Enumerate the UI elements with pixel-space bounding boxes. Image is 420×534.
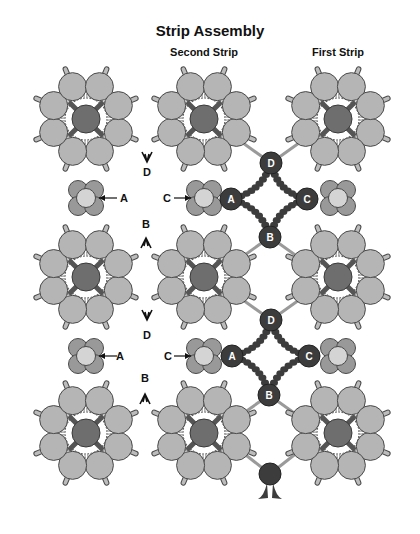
annotation-label-b: B xyxy=(142,218,150,230)
hub-node xyxy=(36,383,136,483)
connector-node-b: B xyxy=(259,226,281,248)
junction-node xyxy=(187,181,222,216)
hub-node xyxy=(36,69,136,169)
hub-nodes xyxy=(36,69,388,483)
svg-text:A: A xyxy=(228,351,235,362)
connector-node-partial xyxy=(258,463,282,499)
hub-node xyxy=(288,383,388,483)
annotation-label-b: B xyxy=(141,372,149,384)
hub-node xyxy=(154,383,254,483)
svg-text:B: B xyxy=(265,390,272,401)
annotation-label-c: C xyxy=(163,192,171,204)
hub-node xyxy=(154,227,254,327)
connector-node-a: A xyxy=(221,345,243,367)
first-strip-label: First Strip xyxy=(312,46,364,58)
svg-text:A: A xyxy=(227,194,234,205)
annotation-label-a: A xyxy=(120,192,128,204)
connector-node-b: B xyxy=(258,384,280,406)
connector-node-a: A xyxy=(220,188,242,210)
annotation-label-d: D xyxy=(143,166,151,178)
svg-text:B: B xyxy=(266,232,273,243)
junction-node xyxy=(321,181,356,216)
svg-text:D: D xyxy=(267,315,274,326)
hub-node xyxy=(36,227,136,327)
annotation-label-d: D xyxy=(143,329,151,341)
hub-node xyxy=(288,69,388,169)
svg-text:C: C xyxy=(303,194,310,205)
strip-assembly-diagram: DACBDACB xyxy=(0,0,420,534)
svg-text:C: C xyxy=(305,351,312,362)
hub-node xyxy=(288,227,388,327)
connector-node-d: D xyxy=(260,309,282,331)
annotation-label-c: C xyxy=(164,350,172,362)
svg-text:D: D xyxy=(267,158,274,169)
junction-node xyxy=(69,181,104,216)
connector-node-c: C xyxy=(298,345,320,367)
junction-node xyxy=(69,339,104,374)
annotation-label-a: A xyxy=(116,350,124,362)
diagram-title: Strip Assembly xyxy=(0,22,420,39)
second-strip-label: Second Strip xyxy=(170,46,238,58)
hub-node xyxy=(154,69,254,169)
connector-node-c: C xyxy=(296,188,318,210)
junction-node xyxy=(187,339,222,374)
junction-node xyxy=(321,339,356,374)
connector-node-d: D xyxy=(260,152,282,174)
